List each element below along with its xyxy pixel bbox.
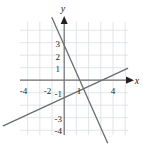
y-tick-label--1: -1: [55, 89, 63, 99]
y-axis-label: y: [60, 3, 66, 14]
y-tick-label-1: 1: [56, 64, 61, 74]
coordinate-plane-figure: y x -4 -2 1 4 3 2 1 -1 -3 -4: [0, 0, 143, 153]
y-tick-label-3: 3: [56, 39, 61, 49]
coordinate-plot-svg: y x -4 -2 1 4 3 2 1 -1 -3 -4: [0, 0, 143, 153]
x-axis-label: x: [134, 75, 140, 86]
y-tick-label--4: -4: [55, 126, 63, 136]
x-tick-label--2: -2: [44, 86, 52, 96]
y-tick-label-2: 2: [56, 52, 61, 62]
x-tick-label-4: 4: [111, 86, 116, 96]
y-tick-label--3: -3: [55, 114, 63, 124]
x-tick-label-1: 1: [77, 86, 82, 96]
x-tick-label--4: -4: [20, 86, 28, 96]
